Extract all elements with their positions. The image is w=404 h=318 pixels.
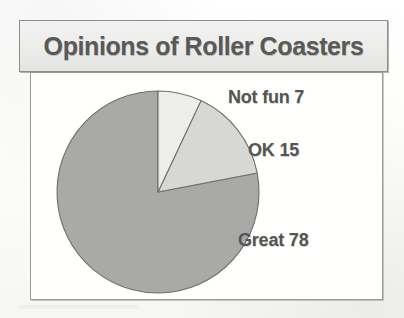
chart-title-bar: Opinions of Roller Coasters [19, 20, 388, 72]
pie-label-ok: OK 15 [248, 140, 299, 161]
pie-chart [54, 88, 262, 296]
chart-title: Opinions of Roller Coasters [44, 32, 364, 61]
pie-slices [57, 91, 259, 293]
pie-chart-screenshot: Opinions of Roller Coasters Not fun 7 OK… [0, 0, 404, 318]
pie-label-not-fun: Not fun 7 [228, 87, 304, 108]
scan-artifact [18, 305, 138, 309]
pie-label-great: Great 78 [238, 230, 308, 251]
